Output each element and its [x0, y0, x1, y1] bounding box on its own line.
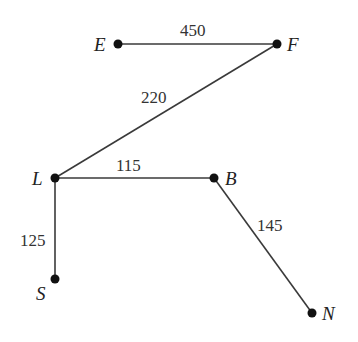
- node-label-N: N: [321, 303, 336, 324]
- edge-weight-E-F: 450: [180, 21, 206, 40]
- edge-weight-B-N: 145: [257, 216, 283, 235]
- node-label-S: S: [36, 283, 46, 304]
- edge-weight-L-S: 125: [20, 231, 46, 250]
- node-label-B: B: [225, 168, 237, 189]
- edge-weight-F-L: 220: [141, 88, 167, 107]
- node-E: [114, 40, 123, 49]
- edge-F-L: [55, 44, 277, 178]
- node-label-L: L: [31, 168, 43, 189]
- node-L: [51, 174, 60, 183]
- edge-weight-L-B: 115: [116, 156, 141, 175]
- node-S: [51, 275, 60, 284]
- node-label-E: E: [93, 34, 106, 55]
- node-label-F: F: [286, 34, 299, 55]
- node-F: [273, 40, 282, 49]
- node-B: [210, 174, 219, 183]
- edge-B-N: [214, 178, 312, 313]
- graph-diagram: 450 220 115 125 145 E F L B S N: [0, 0, 358, 342]
- node-N: [308, 309, 317, 318]
